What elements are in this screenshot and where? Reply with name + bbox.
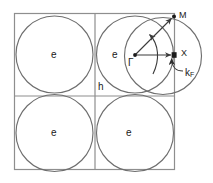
pocket-label-upper-right: e — [112, 50, 118, 60]
gamma-point-label: Γ — [128, 58, 134, 68]
brillouin-zone-frame — [15, 14, 175, 170]
pocket-label-upper-left: e — [51, 50, 57, 60]
fermi-surface-diagram — [0, 0, 213, 183]
pocket-label-lower-left: e — [51, 128, 57, 138]
symmetry-direction-arrows — [136, 19, 172, 75]
marker-X-point — [172, 52, 177, 58]
M-point-label: M — [179, 11, 187, 20]
marker-M-point — [172, 15, 176, 19]
arrow-arc-kf-sweep — [150, 35, 158, 75]
kf-subscript: F — [190, 71, 194, 78]
pocket-circle-lower-right — [97, 95, 174, 172]
figure-canvas: e e e e h Γ M X kF — [0, 0, 213, 183]
pocket-label-lower-right: e — [126, 128, 132, 138]
X-point-label: X — [181, 49, 187, 58]
hole-region-label: h — [98, 82, 104, 92]
fermi-wavevector-label: kF — [185, 68, 194, 78]
